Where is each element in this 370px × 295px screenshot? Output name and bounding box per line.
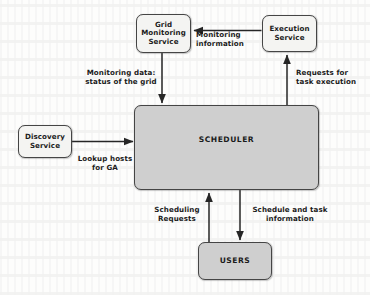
edge-label-monitoring-data: Monitoring data: status of the grid [78,69,164,86]
edge-label-lookup-hosts-for-ga: Lookup hosts for GA [74,155,136,172]
node-scheduler-label: SCHEDULER [199,136,254,145]
node-execution-service[interactable]: Execution Service [262,15,317,52]
node-users[interactable]: USERS [198,242,272,280]
node-discovery-service[interactable]: Discovery Service [18,125,72,158]
node-grid-monitoring-service-label: Grid Monitoring Service [141,21,186,46]
diagram-canvas: Grid Monitoring Service Execution Servic… [0,0,370,295]
edge-label-monitoring-information: Monitoring information [196,31,244,48]
node-scheduler[interactable]: SCHEDULER [134,105,319,190]
edge-label-scheduling-requests: Scheduling Requests [148,206,206,223]
node-users-label: USERS [220,257,251,266]
node-grid-monitoring-service[interactable]: Grid Monitoring Service [136,14,191,53]
node-discovery-service-label: Discovery Service [25,133,65,150]
edge-label-schedule-and-task-information: Schedule and task information [246,206,334,223]
edge-label-requests-for-task-execution: Requests for task execution [296,69,356,86]
node-execution-service-label: Execution Service [269,25,309,42]
